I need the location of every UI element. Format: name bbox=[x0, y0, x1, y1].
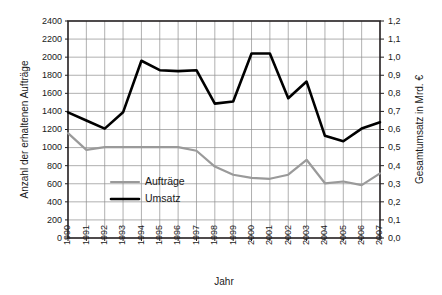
y-axis-right-tick-label: 0,4 bbox=[388, 161, 401, 171]
x-axis-tick-label: 2002 bbox=[283, 225, 293, 245]
y-axis-left-tick-label: 2000 bbox=[42, 52, 62, 62]
y-axis-left-tick-label: 0 bbox=[57, 233, 62, 243]
y-axis-right-tick-label: 0,1 bbox=[388, 215, 401, 225]
y-axis-right-ticks: 0,00,10,20,30,40,50,60,70,80,91,01,11,2 bbox=[380, 16, 401, 243]
y-axis-left-tick-label: 1800 bbox=[42, 70, 62, 80]
x-axis-tick-label: 1999 bbox=[228, 225, 238, 245]
x-axis-tick-label: 2003 bbox=[301, 225, 311, 245]
y-axis-right-tick-label: 0,5 bbox=[388, 142, 401, 152]
y-axis-left-tick-label: 800 bbox=[47, 161, 62, 171]
legend-label-auftraege: Aufträge bbox=[145, 175, 185, 187]
y-axis-left-tick-label: 2200 bbox=[42, 34, 62, 44]
y-axis-left-title: Anzahl der erhaltenen Aufträge bbox=[19, 60, 30, 198]
y-axis-left-tick-label: 200 bbox=[47, 215, 62, 225]
y-axis-left-tick-label: 600 bbox=[47, 179, 62, 189]
y-axis-right-tick-label: 0,6 bbox=[388, 124, 401, 134]
x-axis-tick-label: 1993 bbox=[117, 225, 127, 245]
y-axis-right-tick-label: 0,2 bbox=[388, 197, 401, 207]
y-axis-right-tick-label: 1,2 bbox=[388, 16, 401, 26]
y-axis-left-ticks: 0200400600800100012001400160018002000220… bbox=[42, 16, 68, 243]
gridlines bbox=[68, 21, 380, 238]
y-axis-left-tick-label: 400 bbox=[47, 197, 62, 207]
x-axis-tick-label: 1991 bbox=[81, 225, 91, 245]
y-axis-right-tick-label: 0,7 bbox=[388, 106, 401, 116]
y-axis-left-tick-label: 1400 bbox=[42, 106, 62, 116]
x-axis-tick-label: 2006 bbox=[356, 225, 366, 245]
y-axis-left-tick-label: 1600 bbox=[42, 88, 62, 98]
y-axis-left-tick-label: 2400 bbox=[42, 16, 62, 26]
x-axis-tick-label: 2000 bbox=[246, 225, 256, 245]
y-axis-right-tick-label: 1,0 bbox=[388, 52, 401, 62]
series-line-umsatz bbox=[68, 54, 380, 142]
x-axis-tick-label: 1994 bbox=[136, 225, 146, 245]
y-axis-left-tick-label: 1200 bbox=[42, 124, 62, 134]
x-axis-title: Jahr bbox=[214, 276, 234, 287]
chart-container: 0200400600800100012001400160018002000220… bbox=[0, 0, 442, 295]
series-line-auftraege bbox=[68, 133, 380, 185]
x-axis-tick-label: 1995 bbox=[154, 225, 164, 245]
y-axis-right-tick-label: 1,1 bbox=[388, 34, 401, 44]
x-axis-ticks: 1990199119921993199419951996199719981999… bbox=[62, 225, 384, 245]
legend: Aufträge Umsatz bbox=[111, 175, 185, 204]
legend-label-umsatz: Umsatz bbox=[145, 192, 181, 204]
x-axis-tick-label: 2001 bbox=[264, 225, 274, 245]
y-axis-left-tick-label: 1000 bbox=[42, 142, 62, 152]
x-axis-tick-label: 2004 bbox=[319, 225, 329, 245]
y-axis-right-title: Gesamtumsatz in Mrd. € bbox=[414, 75, 425, 184]
x-axis-tick-label: 1996 bbox=[172, 225, 182, 245]
y-axis-right-tick-label: 0,3 bbox=[388, 179, 401, 189]
x-axis-tick-label: 1992 bbox=[99, 225, 109, 245]
x-axis-tick-label: 2005 bbox=[338, 225, 348, 245]
y-axis-right-tick-label: 0,9 bbox=[388, 70, 401, 80]
x-axis-tick-label: 1997 bbox=[191, 225, 201, 245]
y-axis-right-tick-label: 0,0 bbox=[388, 233, 401, 243]
x-axis-tick-label: 1998 bbox=[209, 225, 219, 245]
y-axis-right-tick-label: 0,8 bbox=[388, 88, 401, 98]
